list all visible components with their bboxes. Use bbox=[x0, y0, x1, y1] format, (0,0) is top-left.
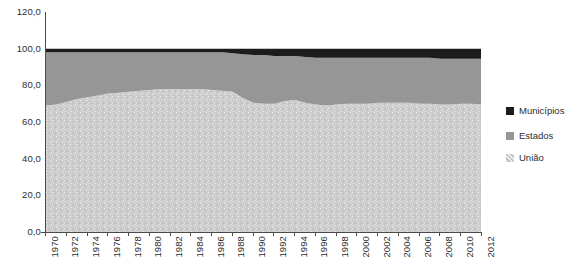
y-tick-label: 60,0 bbox=[0, 117, 41, 127]
y-axis: 0,020,040,060,080,0100,0120,0 bbox=[0, 0, 41, 277]
x-tick-label: 1972 bbox=[70, 236, 80, 258]
x-tick-label: 2008 bbox=[444, 236, 454, 258]
x-tick-label: 2002 bbox=[382, 236, 392, 258]
legend-swatch-icon bbox=[506, 132, 514, 140]
x-tick-label: 1970 bbox=[50, 236, 60, 258]
x-tick-mark bbox=[232, 232, 233, 236]
stacked-area-chart: 0,020,040,060,080,0100,0120,0 bbox=[0, 0, 585, 277]
x-tick-label: 1980 bbox=[153, 236, 163, 258]
legend-item: Municípios bbox=[506, 104, 564, 117]
x-tick-mark bbox=[460, 232, 461, 236]
x-tick-mark bbox=[211, 232, 212, 236]
x-tick-label: 2010 bbox=[465, 236, 475, 258]
x-tick-mark bbox=[66, 232, 67, 236]
legend-item-label: Municípios bbox=[519, 106, 564, 116]
x-tick-mark bbox=[87, 232, 88, 236]
x-tick-label: 1990 bbox=[257, 236, 267, 258]
y-tick-label: 40,0 bbox=[0, 154, 41, 164]
x-tick-label: 2004 bbox=[402, 236, 412, 258]
x-axis-line bbox=[45, 232, 482, 233]
legend-item-label: União bbox=[519, 153, 544, 163]
x-tick-mark bbox=[294, 232, 295, 236]
x-tick-label: 2000 bbox=[361, 236, 371, 258]
x-tick-mark bbox=[190, 232, 191, 236]
x-axis: 1970197219741976197819801982198419861988… bbox=[45, 236, 485, 277]
y-tick-label: 120,0 bbox=[0, 7, 41, 17]
x-tick-mark bbox=[377, 232, 378, 236]
plot-area bbox=[45, 12, 481, 232]
x-tick-mark bbox=[398, 232, 399, 236]
x-tick-mark bbox=[170, 232, 171, 236]
x-tick-label: 1996 bbox=[319, 236, 329, 258]
x-tick-label: 1984 bbox=[195, 236, 205, 258]
x-tick-mark bbox=[253, 232, 254, 236]
x-tick-mark bbox=[273, 232, 274, 236]
y-tick-label: 100,0 bbox=[0, 44, 41, 54]
x-tick-label: 1982 bbox=[174, 236, 184, 258]
x-tick-mark bbox=[419, 232, 420, 236]
x-tick-mark bbox=[439, 232, 440, 236]
x-tick-label: 1994 bbox=[299, 236, 309, 258]
x-tick-label: 2006 bbox=[423, 236, 433, 258]
y-tick-label: 0,0 bbox=[0, 227, 41, 237]
series-uniao-path bbox=[46, 89, 481, 232]
x-tick-label: 1976 bbox=[112, 236, 122, 258]
x-tick-mark bbox=[149, 232, 150, 236]
legend-item: União bbox=[506, 151, 544, 164]
x-tick-mark bbox=[107, 232, 108, 236]
legend-swatch-icon bbox=[506, 107, 514, 115]
x-tick-label: 1986 bbox=[216, 236, 226, 258]
y-tick-label: 80,0 bbox=[0, 80, 41, 90]
x-tick-mark bbox=[45, 232, 46, 236]
area-series-layer bbox=[46, 12, 481, 232]
x-tick-mark bbox=[356, 232, 357, 236]
y-tick-label: 20,0 bbox=[0, 190, 41, 200]
x-tick-label: 1992 bbox=[278, 236, 288, 258]
x-tick-label: 1988 bbox=[236, 236, 246, 258]
x-tick-mark bbox=[128, 232, 129, 236]
x-tick-label: 2012 bbox=[486, 236, 496, 258]
legend-item: Estados bbox=[506, 129, 553, 142]
x-tick-label: 1978 bbox=[133, 236, 143, 258]
x-tick-mark bbox=[481, 232, 482, 236]
legend-item-label: Estados bbox=[519, 131, 553, 141]
x-tick-mark bbox=[336, 232, 337, 236]
x-tick-label: 1974 bbox=[91, 236, 101, 258]
x-tick-mark bbox=[315, 232, 316, 236]
x-tick-label: 1998 bbox=[340, 236, 350, 258]
legend-swatch-icon bbox=[506, 154, 514, 162]
